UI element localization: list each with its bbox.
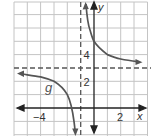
- arrow-up-icon: [83, 2, 89, 10]
- y-tick-label-4: 4: [84, 49, 90, 61]
- x-axis-label: x: [136, 110, 143, 122]
- x-tick-label-2: 2: [117, 111, 123, 123]
- function-label-g: g: [45, 80, 53, 95]
- x-tick-label-neg4: −4: [33, 111, 46, 123]
- graph: y x −4 2 2 4 g: [0, 0, 153, 139]
- arrow-left-icon: [17, 71, 24, 77]
- arrow-right-icon: [136, 59, 143, 65]
- y-tick-label-2: 2: [84, 76, 90, 88]
- y-axis-label: y: [97, 1, 105, 13]
